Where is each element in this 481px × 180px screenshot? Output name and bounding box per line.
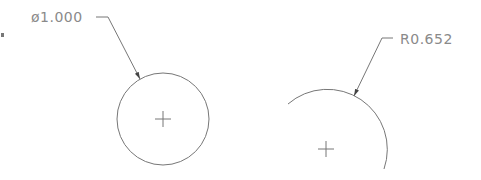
center-mark-icon (318, 141, 334, 157)
radius-leader-line[interactable] (354, 38, 393, 96)
diameter-dimension-label[interactable]: ø1.000 (31, 9, 83, 25)
diameter-leader-line[interactable] (96, 17, 140, 79)
arc-feature[interactable] (288, 89, 387, 169)
radius-dimension-label[interactable]: R0.652 (400, 31, 453, 47)
center-mark-icon (155, 111, 171, 127)
circle-feature[interactable] (117, 73, 209, 165)
arc-outline[interactable] (288, 89, 387, 169)
cad-drawing-canvas (0, 0, 481, 180)
